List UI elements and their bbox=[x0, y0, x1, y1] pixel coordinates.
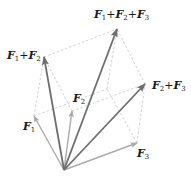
label-f3: F3 bbox=[136, 147, 149, 161]
label-f2: F2 bbox=[72, 92, 85, 106]
label-f1-plus-f2: F1+F2 bbox=[6, 49, 41, 63]
basis-vectors bbox=[34, 111, 137, 170]
vector-f3 bbox=[64, 143, 137, 170]
label-f2-plus-f3: F2+F3 bbox=[151, 79, 186, 93]
label-f1-plus-f2-plus-f3: F1+F2+F3 bbox=[93, 8, 149, 22]
edge-f2f3-to-sum bbox=[117, 29, 145, 84]
edge-f3-to-f2f3 bbox=[137, 84, 145, 143]
vector-sum-diagram: F1 F2 F3 F1+F2 F2+F3 F1+F2+F3 bbox=[0, 0, 191, 177]
edge-f1-to-f1f3 bbox=[34, 89, 107, 116]
edge-f1-to-f1f2 bbox=[34, 57, 44, 116]
vector-f1-plus-f2-plus-f3 bbox=[64, 29, 117, 170]
edge-f1f3-to-sum bbox=[107, 29, 117, 89]
parallelepiped-edges bbox=[34, 29, 145, 143]
sum-vectors bbox=[44, 29, 145, 170]
edge-f1f2-to-sum bbox=[44, 29, 117, 57]
label-f1: F1 bbox=[22, 120, 35, 134]
